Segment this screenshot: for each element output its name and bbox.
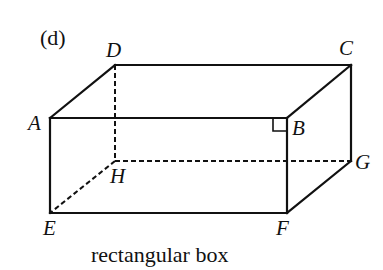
edge-cb — [287, 65, 351, 118]
vertex-label-b: B — [292, 118, 305, 139]
vertex-label-h: H — [110, 166, 125, 187]
vertex-label-e: E — [43, 218, 56, 239]
edge-ad — [50, 65, 115, 118]
vertex-label-c: C — [339, 38, 353, 59]
vertex-label-a: A — [28, 113, 41, 134]
edge-he-hidden — [50, 161, 115, 213]
vertex-label-f: F — [276, 218, 289, 239]
vertex-label-d: D — [106, 40, 121, 61]
right-angle-marker — [273, 118, 287, 131]
edge-gf — [287, 161, 351, 213]
figure-caption: rectangular box — [91, 244, 228, 266]
vertex-label-g: G — [355, 152, 370, 173]
rectangular-box-figure: (d) D C A B H G E F rectangular box — [0, 0, 383, 270]
part-label: (d) — [40, 27, 66, 49]
